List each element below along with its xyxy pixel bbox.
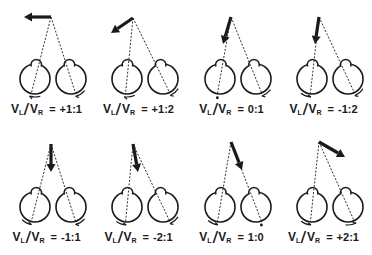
left-line-of-sight xyxy=(31,17,51,94)
left-cornea xyxy=(122,59,133,66)
ratio-value: -1:1 xyxy=(61,231,81,243)
equals-sign: = xyxy=(237,231,243,243)
left-eye xyxy=(20,17,51,99)
velocity-ratio-label: VL/VR=+1:2 xyxy=(92,98,185,118)
velocity-ratio-label: VL/VR=0:1 xyxy=(185,98,278,118)
panel-drawing xyxy=(277,128,370,238)
ratio-value: 1:0 xyxy=(248,231,264,243)
left-cornea xyxy=(31,187,42,194)
target-motion-arrow-icon xyxy=(47,144,56,172)
right-line-of-sight xyxy=(51,144,76,221)
velocity-ratio-label: VL/VR=-1:1 xyxy=(0,226,93,246)
vl-subscript: L xyxy=(20,237,24,244)
vl-subscript: L xyxy=(112,237,116,244)
ratio-value: -1:2 xyxy=(338,103,358,115)
vergence-diagram-figure: VL/VR=+1:1VL/VR=+1:2VL/VR=0:1VL/VR=-1:2V… xyxy=(0,0,372,255)
target-motion-arrow-icon xyxy=(24,13,51,22)
vr-subscript: R xyxy=(131,237,136,244)
ratio-value: +2:1 xyxy=(337,231,359,243)
target-motion-arrow-icon xyxy=(231,142,243,170)
right-eye xyxy=(133,144,178,224)
panel-2: VL/VR=+1:2 xyxy=(92,0,185,127)
right-line-of-sight xyxy=(51,17,76,93)
ratio-slash: / xyxy=(212,228,218,248)
equals-sign: = xyxy=(49,103,55,115)
left-line-of-sight xyxy=(31,144,51,222)
ratio-slash: / xyxy=(25,228,31,248)
velocity-ratio-label: VL/VR=1:0 xyxy=(185,226,278,246)
equals-sign: = xyxy=(328,103,334,115)
target-motion-arrow-icon xyxy=(319,142,345,157)
left-cornea xyxy=(216,59,227,66)
left-eye xyxy=(297,17,327,97)
velocity-ratio-label: VL/VR=+1:1 xyxy=(0,98,93,118)
right-rotation-arrowhead-icon xyxy=(170,224,174,225)
left-eye xyxy=(205,142,235,225)
equals-sign: = xyxy=(51,231,57,243)
vr-symbol: V xyxy=(307,230,315,244)
panel-7: VL/VR=1:0 xyxy=(185,128,278,255)
right-eyeball xyxy=(333,192,363,222)
equals-sign: = xyxy=(141,103,147,115)
left-eye xyxy=(297,142,327,225)
right-eyeball xyxy=(241,64,271,94)
vl-subscript: L xyxy=(297,109,301,116)
vr-subscript: R xyxy=(39,237,44,244)
velocity-ratio-label: VL/VR=+2:1 xyxy=(277,226,370,246)
panel-drawing xyxy=(185,128,278,238)
equals-sign: = xyxy=(143,231,149,243)
right-eye xyxy=(133,18,178,96)
panel-4: VL/VR=-1:2 xyxy=(277,0,370,127)
left-cornea xyxy=(122,187,133,194)
target-motion-arrow-icon xyxy=(312,17,321,44)
left-eyeball xyxy=(112,192,142,222)
vl-symbol: V xyxy=(103,102,111,116)
left-cornea xyxy=(307,59,318,66)
vr-subscript: R xyxy=(315,237,320,244)
velocity-ratio-label: VL/VR=-1:2 xyxy=(277,98,370,118)
ratio-slash: / xyxy=(302,100,308,120)
left-eye xyxy=(205,17,235,99)
left-eye xyxy=(112,144,142,225)
ratio-slash: / xyxy=(117,228,123,248)
left-cornea xyxy=(307,187,318,194)
panel-3: VL/VR=0:1 xyxy=(185,0,278,127)
ratio-slash: / xyxy=(301,228,307,248)
panel-drawing xyxy=(92,0,185,110)
vl-subscript: L xyxy=(207,109,211,116)
ratio-value: -2:1 xyxy=(153,231,173,243)
vr-subscript: R xyxy=(130,109,135,116)
panel-6: VL/VR=-2:1 xyxy=(92,128,185,255)
vl-symbol: V xyxy=(11,102,19,116)
left-rotation-arc xyxy=(30,96,41,97)
right-eye xyxy=(51,17,86,98)
panel-1: VL/VR=+1:1 xyxy=(0,0,93,127)
right-eye xyxy=(51,144,86,226)
left-line-of-sight xyxy=(126,18,133,94)
left-line-of-sight xyxy=(217,142,231,222)
right-line-of-sight xyxy=(133,18,170,92)
right-cornea xyxy=(249,187,260,194)
panel-drawing xyxy=(92,128,185,238)
ratio-value: +1:2 xyxy=(152,103,174,115)
left-line-of-sight xyxy=(126,144,133,222)
right-eye xyxy=(231,17,271,97)
right-rotation-arrowhead-icon xyxy=(262,96,265,97)
panel-5: VL/VR=-1:1 xyxy=(0,128,93,255)
vr-subscript: R xyxy=(226,109,231,116)
right-cornea xyxy=(155,59,166,66)
equals-sign: = xyxy=(326,231,332,243)
ratio-value: 0:1 xyxy=(248,103,264,115)
left-line-of-sight xyxy=(310,142,319,222)
right-cornea xyxy=(340,187,351,194)
vr-subscript: R xyxy=(38,109,43,116)
right-rotation-arrowhead-icon xyxy=(355,96,359,97)
panel-drawing xyxy=(185,0,278,110)
panel-drawing xyxy=(0,128,93,238)
panel-drawing xyxy=(277,0,370,110)
right-line-of-sight xyxy=(133,144,169,221)
ratio-value: +1:1 xyxy=(60,103,82,115)
vl-subscript: L xyxy=(207,237,211,244)
ratio-slash: / xyxy=(24,100,30,120)
vr-subscript: R xyxy=(226,237,231,244)
